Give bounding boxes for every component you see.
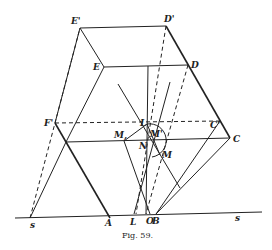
edge-E-D	[104, 65, 188, 67]
label-M-sub: M,	[113, 130, 127, 141]
edge-Fp-Cp	[55, 121, 220, 123]
label-L: L	[139, 118, 146, 128]
label-E: E	[92, 62, 100, 72]
label-E-prime: E'	[70, 16, 81, 26]
label-B: B	[151, 216, 160, 226]
label-M-prime: M'	[149, 129, 163, 139]
label-D: D	[190, 60, 199, 70]
edge-Fp-A	[55, 123, 110, 218]
edge-E-F	[66, 67, 104, 142]
edge-Ep-E	[80, 28, 104, 67]
figure-caption: Fig. 59.	[122, 231, 153, 240]
label-A: A	[104, 218, 112, 228]
label-M: M	[161, 150, 173, 160]
label-D-prime: D'	[163, 14, 175, 24]
label-F-prime: F'	[43, 118, 53, 128]
edge-Ep-Dp	[80, 26, 166, 28]
ground-line	[15, 212, 262, 218]
label-s-left: s	[30, 220, 35, 230]
line-s-F	[30, 142, 66, 218]
label-C: C	[233, 134, 241, 144]
label-C-prime: C'	[210, 120, 220, 130]
label-s-right: s	[235, 213, 240, 223]
label-N: N	[138, 141, 148, 151]
diagonal-line	[118, 84, 180, 188]
label-L-base: L	[129, 217, 136, 227]
geometry-diagram: E' D' E D F' C' C L M, M' N M s A L O B …	[0, 0, 272, 250]
